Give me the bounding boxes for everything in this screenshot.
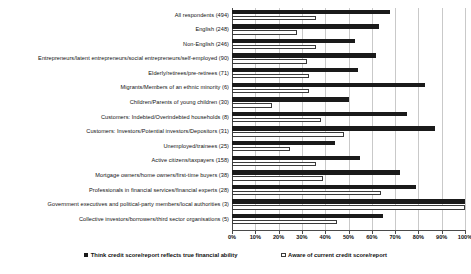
category-label: Entrepreneurs/latent entrepreneurs/socia…	[0, 56, 232, 62]
chart-row: Mortgage owners/home owners/first-time b…	[0, 169, 471, 184]
legend-item-think-reflects: Think credit score/report reflects true …	[84, 252, 237, 258]
category-label: Collective investors/borrowers/third sec…	[0, 217, 232, 223]
category-label: Children/Parents of young children (30)	[0, 100, 232, 106]
category-label: Government executives and political-part…	[0, 202, 232, 208]
chart-row: English (248)	[0, 23, 471, 38]
x-tick-label: 10%	[250, 234, 261, 240]
category-label: Customers: Indebted/Overindebted househo…	[0, 115, 232, 121]
bar-aware	[232, 132, 344, 136]
bar-group	[232, 183, 471, 198]
bar-aware	[232, 89, 309, 93]
category-label: Customers: Investors/Potential investors…	[0, 129, 232, 135]
category-label: Active citizens/taxpayers (158)	[0, 158, 232, 164]
x-tick-label: 90%	[436, 234, 447, 240]
bar-group	[232, 52, 471, 67]
x-tick-label: 50%	[343, 234, 354, 240]
bar-aware	[232, 220, 337, 224]
bar-think-reflects	[232, 39, 355, 43]
bar-aware	[232, 103, 272, 107]
category-label: Migrants/Members of an ethnic minority (…	[0, 85, 232, 91]
bar-think-reflects	[232, 141, 335, 145]
bar-group	[232, 96, 471, 111]
chart-row: Entrepreneurs/latent entrepreneurs/socia…	[0, 52, 471, 67]
chart-row: Active citizens/taxpayers (158)	[0, 154, 471, 169]
category-label: Non-English (246)	[0, 42, 232, 48]
bar-group	[232, 23, 471, 38]
chart-row: Unemployed/trainees (25)	[0, 139, 471, 154]
bar-think-reflects	[232, 126, 435, 130]
bar-group	[232, 66, 471, 81]
x-tick-label: 70%	[389, 234, 400, 240]
bar-group	[232, 125, 471, 140]
bar-aware	[232, 176, 323, 180]
bar-group	[232, 81, 471, 96]
bar-think-reflects	[232, 112, 407, 116]
bar-aware	[232, 162, 316, 166]
chart-row: Government executives and political-part…	[0, 198, 471, 213]
filled-square-icon	[84, 253, 88, 257]
chart-row: Migrants/Members of an ethnic minority (…	[0, 81, 471, 96]
chart-row: Customers: Investors/Potential investors…	[0, 125, 471, 140]
bar-think-reflects	[232, 68, 358, 72]
category-label: Unemployed/trainees (25)	[0, 144, 232, 150]
chart-legend: Think credit score/report reflects true …	[0, 252, 471, 258]
bar-group	[232, 198, 471, 213]
bar-think-reflects	[232, 83, 425, 87]
chart-plot-area: All respondents (494)English (248)Non-En…	[0, 8, 471, 230]
x-tick-label: 80%	[413, 234, 424, 240]
bar-aware	[232, 205, 465, 209]
x-tick-label: 30%	[296, 234, 307, 240]
bar-group	[232, 8, 471, 23]
chart-row: Non-English (246)	[0, 37, 471, 52]
bar-think-reflects	[232, 156, 360, 160]
bar-aware	[232, 191, 381, 195]
bar-aware	[232, 45, 316, 49]
chart-row: All respondents (494)	[0, 8, 471, 23]
x-tick-label: 60%	[366, 234, 377, 240]
x-tick-label: 100%	[458, 234, 471, 240]
x-axis-ticks: 0%10%20%30%40%50%60%70%80%90%100%	[232, 231, 465, 243]
bar-aware	[232, 59, 307, 63]
bar-group	[232, 212, 471, 227]
horizontal-bar-chart: All respondents (494)English (248)Non-En…	[0, 0, 471, 274]
chart-row: Customers: Indebted/Overindebted househo…	[0, 110, 471, 125]
bar-think-reflects	[232, 170, 400, 174]
bar-group	[232, 110, 471, 125]
category-label: English (248)	[0, 27, 232, 33]
open-square-icon	[281, 253, 285, 257]
bar-think-reflects	[232, 185, 416, 189]
bar-group	[232, 37, 471, 52]
chart-row: Elderly/retirees/pre-retirees (71)	[0, 66, 471, 81]
legend-item-aware: Aware of current credit score/report	[281, 252, 386, 258]
chart-row: Professionals in financial services/fina…	[0, 183, 471, 198]
x-tick-label: 20%	[273, 234, 284, 240]
bar-think-reflects	[232, 53, 376, 57]
bar-group	[232, 139, 471, 154]
bar-aware	[232, 30, 297, 34]
bar-think-reflects	[232, 10, 390, 14]
chart-row: Children/Parents of young children (30)	[0, 96, 471, 111]
legend-label: Think credit score/report reflects true …	[91, 252, 238, 258]
bar-aware	[232, 16, 316, 20]
x-tick-label: 40%	[320, 234, 331, 240]
chart-row: Collective investors/borrowers/third sec…	[0, 212, 471, 227]
bar-think-reflects	[232, 214, 383, 218]
bar-aware	[232, 118, 321, 122]
bar-group	[232, 169, 471, 184]
bar-think-reflects	[232, 199, 465, 203]
bar-think-reflects	[232, 97, 349, 101]
legend-label: Aware of current credit score/report	[288, 252, 387, 258]
category-label: Professionals in financial services/fina…	[0, 188, 232, 194]
bar-aware	[232, 147, 290, 151]
category-label: Mortgage owners/home owners/first-time b…	[0, 173, 232, 179]
category-label: All respondents (494)	[0, 13, 232, 19]
bar-aware	[232, 74, 309, 78]
x-tick-label: 0%	[228, 234, 236, 240]
bar-think-reflects	[232, 24, 379, 28]
bar-group	[232, 154, 471, 169]
category-label: Elderly/retirees/pre-retirees (71)	[0, 71, 232, 77]
